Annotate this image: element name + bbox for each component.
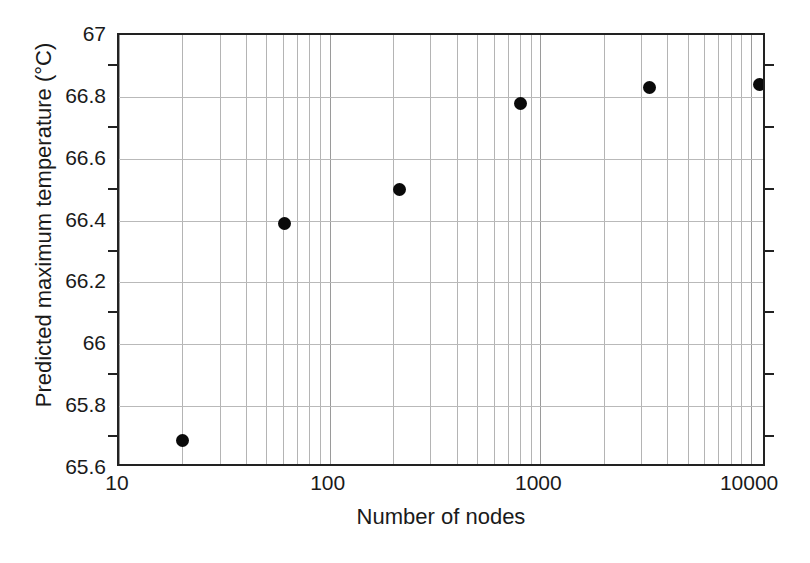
y-axis-minor-tick (108, 373, 117, 375)
y-axis-minor-tick-right (765, 373, 774, 375)
y-axis-minor-tick-right (765, 126, 774, 128)
gridline-vertical (731, 35, 732, 464)
y-axis-minor-tick (108, 435, 117, 437)
x-axis-tick-label: 1000 (515, 471, 562, 495)
y-axis-tick-label: 65.6 (0, 456, 106, 477)
gridline-vertical (667, 35, 668, 464)
y-axis-minor-tick-right (765, 188, 774, 190)
y-axis-minor-tick (108, 250, 117, 252)
gridline-vertical (718, 35, 719, 464)
x-axis-tick-label: 100 (310, 471, 345, 495)
gridline-vertical (430, 35, 431, 464)
gridline-vertical (320, 35, 321, 464)
gridline-vertical (751, 35, 752, 464)
gridline-horizontal (119, 97, 763, 98)
data-point (176, 434, 189, 447)
y-axis-minor-tick-right (765, 250, 774, 252)
gridline-vertical (246, 35, 247, 464)
y-axis-minor-tick (108, 311, 117, 313)
gridline-horizontal (119, 282, 763, 283)
gridline-vertical (266, 35, 267, 464)
y-axis-minor-tick-right (765, 311, 774, 313)
gridline-vertical (531, 35, 532, 464)
y-axis-title: Predicted maximum temperature (°C) (32, 10, 56, 440)
gridline-vertical (641, 35, 642, 464)
gridline-vertical (540, 35, 541, 464)
gridline-vertical (688, 35, 689, 464)
gridline-vertical (508, 35, 509, 464)
x-axis-title: Number of nodes (117, 505, 765, 529)
gridline-horizontal (119, 221, 763, 222)
x-axis-tick-label: 10000 (720, 471, 778, 495)
gridline-vertical (494, 35, 495, 464)
gridline-vertical (457, 35, 458, 464)
gridline-vertical (182, 35, 183, 464)
gridline-vertical (220, 35, 221, 464)
gridline-horizontal (119, 159, 763, 160)
gridline-vertical (309, 35, 310, 464)
gridline-vertical (393, 35, 394, 464)
gridline-vertical (741, 35, 742, 464)
data-point (643, 81, 656, 94)
gridline-horizontal (119, 344, 763, 345)
gridline-vertical (477, 35, 478, 464)
x-axis-tick-label: 10 (105, 471, 128, 495)
y-axis-minor-tick (108, 126, 117, 128)
data-point (278, 217, 291, 230)
gridline-vertical (704, 35, 705, 464)
data-point (753, 78, 765, 91)
scatter-chart-figure: 6766.866.666.466.26665.865.6 10100100010… (0, 0, 810, 563)
gridline-vertical (330, 35, 331, 464)
gridline-vertical (297, 35, 298, 464)
plot-area (117, 33, 765, 466)
data-point (514, 97, 527, 110)
gridline-horizontal (119, 406, 763, 407)
gridline-vertical (604, 35, 605, 464)
data-point (393, 183, 406, 196)
y-axis-minor-tick (108, 188, 117, 190)
y-axis-minor-tick (108, 64, 117, 66)
gridline-vertical (119, 35, 120, 464)
gridline-vertical (283, 35, 284, 464)
y-axis-minor-tick-right (765, 64, 774, 66)
y-axis-minor-tick-right (765, 435, 774, 437)
